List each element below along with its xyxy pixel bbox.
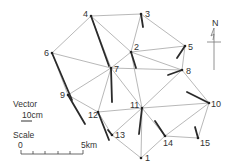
- displacement-vector-network: 123456789101112131415 N Vector 10cm Scal…: [0, 0, 232, 168]
- point-label-8: 8: [186, 66, 191, 76]
- point-label-11: 11: [130, 100, 139, 110]
- edge-4-6: [52, 16, 91, 53]
- legend: Vector 10cm Scale 0 5km: [13, 99, 97, 154]
- edge-14-10: [165, 103, 209, 136]
- edge-11-10: [142, 103, 209, 108]
- vector-arrow-15: [195, 127, 198, 138]
- point-marker-8: [181, 69, 184, 72]
- point-label-6: 6: [44, 48, 49, 58]
- vector-arrow-14: [155, 121, 165, 136]
- vector-arrow-7: [111, 68, 112, 102]
- point-label-3: 3: [145, 9, 150, 19]
- point-marker-2: [130, 51, 133, 54]
- point-label-10: 10: [211, 99, 221, 109]
- point-label-2: 2: [134, 42, 139, 52]
- point-label-1: 1: [145, 153, 150, 163]
- scale-legend-title: Scale: [13, 130, 35, 140]
- edge-6-7: [52, 53, 111, 68]
- edge-7-8: [111, 68, 182, 70]
- point-marker-10: [208, 102, 211, 105]
- point-label-14: 14: [163, 138, 173, 148]
- edge-8-11: [142, 70, 182, 108]
- vector-arrow-10: [187, 92, 209, 103]
- edge-2-8: [131, 52, 182, 70]
- vector-legend-scale: 10cm: [22, 110, 43, 120]
- edge-2-5: [131, 46, 185, 52]
- north-label: N: [212, 18, 219, 28]
- point-marker-1: [140, 157, 143, 160]
- vector-arrow-8: [168, 70, 182, 75]
- point-marker-15: [197, 137, 200, 140]
- vector-arrow-3: [141, 14, 143, 27]
- point-marker-11: [141, 107, 144, 110]
- point-label-15: 15: [200, 138, 210, 148]
- point-label-5: 5: [188, 42, 193, 52]
- point-marker-4: [90, 15, 93, 18]
- scale-start-label: 0: [18, 140, 23, 150]
- point-marker-13: [111, 134, 114, 137]
- edge-15-10: [198, 103, 209, 138]
- vector-arrow-12: [98, 112, 109, 140]
- vector-arrow-9: [68, 95, 85, 124]
- scale-end-label: 5km: [81, 140, 97, 150]
- point-label-9: 9: [60, 90, 65, 100]
- vector-legend-title: Vector: [13, 99, 37, 109]
- point-label-4: 4: [83, 9, 88, 19]
- point-label-7: 7: [114, 64, 119, 74]
- edge-4-3: [91, 14, 141, 16]
- point-marker-6: [51, 52, 54, 55]
- survey-points: 123456789101112131415: [44, 9, 221, 163]
- point-label-12: 12: [88, 110, 98, 120]
- point-marker-14: [164, 135, 167, 138]
- point-label-13: 13: [115, 130, 125, 140]
- triangulation-edges: [52, 14, 209, 158]
- point-marker-3: [140, 13, 143, 16]
- point-marker-7: [110, 67, 113, 70]
- point-marker-9: [67, 94, 70, 97]
- vector-arrow-4: [91, 16, 109, 66]
- north-arrow-icon: N: [207, 18, 221, 70]
- scale-bar: [21, 150, 83, 154]
- point-marker-5: [184, 45, 187, 48]
